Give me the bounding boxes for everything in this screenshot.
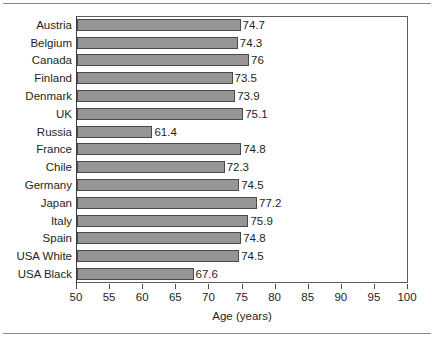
category-label: France	[0, 143, 72, 155]
bar	[77, 108, 243, 120]
bar-chart-figure: Austria74.7Belgium74.3Canada76Finland73.…	[0, 0, 434, 342]
bar-value-label: 74.5	[239, 179, 263, 191]
bar-value-label: 73.5	[233, 72, 257, 84]
bar-row: Italy75.9	[0, 212, 434, 230]
bar	[77, 179, 239, 191]
bar-row: UK75.1	[0, 105, 434, 123]
bar	[77, 90, 235, 102]
bar	[77, 268, 194, 280]
bar	[77, 215, 248, 227]
category-label: Finland	[0, 72, 72, 84]
bar-row: Japan77.2	[0, 194, 434, 212]
bar-row: Russia61.4	[0, 123, 434, 141]
category-label: Germany	[0, 179, 72, 191]
x-axis-tick-mark	[175, 284, 176, 289]
bar-value-label: 74.8	[241, 232, 265, 244]
x-axis-tick-mark	[208, 284, 209, 289]
bar	[77, 232, 241, 244]
bar-value-label: 72.3	[225, 161, 249, 173]
category-label: Japan	[0, 197, 72, 209]
bar	[77, 197, 257, 209]
bar-row: Finland73.5	[0, 69, 434, 87]
bar-row: Chile72.3	[0, 158, 434, 176]
bar-value-label: 77.2	[257, 197, 281, 209]
page-divider-bottom	[3, 333, 431, 334]
bar	[77, 143, 241, 155]
bar-value-label: 74.5	[239, 250, 263, 262]
page-divider-top	[3, 3, 431, 4]
category-label: USA Black	[0, 268, 72, 280]
x-axis-tick-mark	[142, 284, 143, 289]
bar-value-label: 75.1	[243, 108, 267, 120]
x-axis-tick-mark	[76, 284, 77, 289]
x-axis-tick-mark	[242, 284, 243, 289]
category-label: Russia	[0, 126, 72, 138]
category-label: USA White	[0, 250, 72, 262]
bar-value-label: 61.4	[152, 126, 176, 138]
bar-row: USA White74.5	[0, 247, 434, 265]
bar-value-label: 74.3	[238, 37, 262, 49]
bar-row: France74.8	[0, 141, 434, 159]
category-label: Italy	[0, 215, 72, 227]
category-label: Spain	[0, 232, 72, 244]
bar-row: Spain74.8	[0, 230, 434, 248]
category-label: UK	[0, 108, 72, 120]
category-label: Belgium	[0, 37, 72, 49]
bar-value-label: 73.9	[235, 90, 259, 102]
bar-value-label: 76	[249, 54, 264, 66]
bar-row: Canada76	[0, 52, 434, 70]
bar-row: Belgium74.3	[0, 34, 434, 52]
x-axis-title: Age (years)	[76, 310, 408, 323]
x-axis-tick-mark	[407, 284, 408, 289]
category-label: Denmark	[0, 90, 72, 102]
bar	[77, 72, 233, 84]
bar	[77, 250, 239, 262]
bar	[77, 37, 238, 49]
category-label: Austria	[0, 19, 72, 31]
bar	[77, 161, 225, 173]
bar-value-label: 75.9	[248, 215, 272, 227]
bar-row: Germany74.5	[0, 176, 434, 194]
x-axis-tick-mark	[308, 284, 309, 289]
bar	[77, 54, 249, 66]
bar-value-label: 74.8	[241, 143, 265, 155]
bar-row: USA Black67.6	[0, 265, 434, 283]
bar-row: Austria74.7	[0, 16, 434, 34]
x-axis-tick-mark	[109, 284, 110, 289]
bar-row: Denmark73.9	[0, 87, 434, 105]
bar-value-label: 67.6	[194, 268, 218, 280]
x-axis-tick-mark	[374, 284, 375, 289]
x-axis-tick-mark	[275, 284, 276, 289]
x-axis-tick-label: 100	[387, 291, 427, 304]
category-label: Chile	[0, 161, 72, 173]
x-axis-tick-mark	[341, 284, 342, 289]
category-label: Canada	[0, 54, 72, 66]
bar	[77, 19, 241, 31]
bar-value-label: 74.7	[241, 19, 265, 31]
bar	[77, 126, 152, 138]
